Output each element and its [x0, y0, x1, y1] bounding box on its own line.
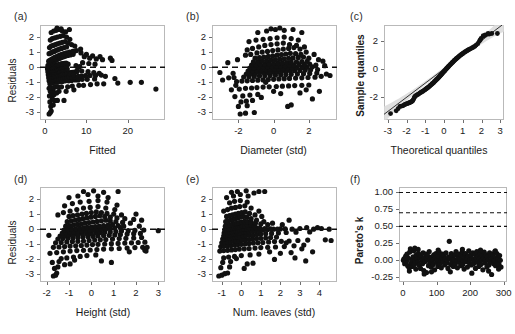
- panel-a: (a) Residuals Fitted -3-2-101201020: [0, 0, 172, 167]
- y-tickmark: [396, 226, 399, 227]
- y-tick-label: 0: [170, 223, 206, 234]
- y-tick-label: 1: [0, 46, 34, 57]
- y-tick-label: 0: [342, 63, 378, 74]
- x-tickmark: [238, 120, 239, 123]
- panel-c-plot: [384, 25, 504, 120]
- panel-b: (b) Diameter (std) -3-2-1012-202: [172, 0, 344, 167]
- x-tickmark: [45, 120, 46, 123]
- x-tickmark: [425, 120, 426, 123]
- y-tick-label: 1: [0, 208, 34, 219]
- y-tickmark: [381, 41, 384, 42]
- y-tick-label: -3: [0, 106, 34, 117]
- y-tickmark: [209, 112, 212, 113]
- x-tickmark: [482, 120, 483, 123]
- x-tickmark: [114, 282, 115, 285]
- panel-a-xlabel: Fitted: [40, 144, 165, 156]
- y-tickmark: [209, 52, 212, 53]
- y-tickmark: [209, 37, 212, 38]
- x-tickmark: [463, 120, 464, 123]
- y-tickmark: [209, 67, 212, 68]
- x-tick-label: 3: [482, 125, 515, 136]
- x-tickmark: [274, 120, 275, 123]
- x-tickmark: [403, 282, 404, 285]
- x-tick-label: 4: [301, 287, 337, 298]
- y-tick-label: -0.25: [357, 271, 393, 282]
- panel-d-xlabel: Height (std): [38, 306, 168, 318]
- y-tickmark: [37, 82, 40, 83]
- panel-e-label: (e): [186, 173, 199, 185]
- y-tickmark: [37, 112, 40, 113]
- x-tick-label: 0: [27, 125, 63, 136]
- x-tickmark: [388, 120, 389, 123]
- y-tickmark: [37, 244, 40, 245]
- y-tickmark: [209, 229, 212, 230]
- y-tickmark: [37, 214, 40, 215]
- y-tickmark: [37, 199, 40, 200]
- y-tickmark: [396, 192, 399, 193]
- y-tickmark: [37, 52, 40, 53]
- panel-f: (f) Pareto's k -0.250.000.250.500.751.00…: [344, 167, 515, 334]
- y-tickmark: [209, 199, 212, 200]
- y-tick-label: -1: [170, 76, 206, 87]
- y-tick-label: -3: [170, 106, 206, 117]
- x-tick-label: 2: [291, 125, 327, 136]
- x-tickmark: [500, 120, 501, 123]
- x-tickmark: [309, 120, 310, 123]
- x-tick-label: 0: [256, 125, 292, 136]
- x-tickmark: [437, 282, 438, 285]
- y-tickmark: [37, 67, 40, 68]
- y-tickmark: [396, 277, 399, 278]
- panel-c-label: (c): [350, 10, 363, 22]
- y-tick-label: -2: [170, 91, 206, 102]
- y-tickmark: [37, 274, 40, 275]
- panel-e-xlabel: Num. leaves (std): [199, 306, 349, 318]
- panel-d-label: (d): [14, 173, 27, 185]
- y-tick-label: -2: [0, 91, 34, 102]
- x-tick-label: 0: [385, 287, 421, 298]
- panel-c-xlabel: Theoretical quantiles: [368, 144, 510, 156]
- x-tickmark: [280, 282, 281, 285]
- x-tick-label: 300: [486, 287, 515, 298]
- y-tick-label: -2: [170, 253, 206, 264]
- x-tickmark: [91, 282, 92, 285]
- panel-b-plot: [212, 25, 337, 120]
- y-tick-label: 2: [170, 31, 206, 42]
- y-tick-label: 0: [0, 223, 34, 234]
- y-tickmark: [381, 69, 384, 70]
- y-tickmark: [37, 229, 40, 230]
- y-tickmark: [209, 82, 212, 83]
- x-tickmark: [241, 282, 242, 285]
- x-tick-label: -2: [220, 125, 256, 136]
- y-tickmark: [209, 244, 212, 245]
- figure-diagnostic-panels: (a) Residuals Fitted -3-2-101201020 (b) …: [0, 0, 515, 334]
- y-tick-label: 0: [170, 61, 206, 72]
- x-tickmark: [261, 282, 262, 285]
- y-tick-label: 2: [0, 31, 34, 42]
- panel-b-label: (b): [186, 10, 199, 22]
- panel-e-plot: [212, 187, 337, 282]
- y-tickmark: [396, 209, 399, 210]
- y-tick-label: -3: [170, 268, 206, 279]
- y-tickmark: [37, 97, 40, 98]
- x-tick-label: 100: [419, 287, 455, 298]
- panel-b-xlabel: Diameter (std): [206, 144, 341, 156]
- panel-a-plot: [40, 25, 165, 120]
- x-tickmark: [300, 282, 301, 285]
- y-tick-label: -1: [0, 238, 34, 249]
- panel-d: (d) Residuals Height (std) -3-2-1012-2-1…: [0, 167, 172, 334]
- x-tickmark: [158, 282, 159, 285]
- y-tickmark: [37, 259, 40, 260]
- y-tick-label: 2: [0, 193, 34, 204]
- y-tick-label: -1: [170, 238, 206, 249]
- x-tick-label: 3: [140, 287, 176, 298]
- y-tickmark: [209, 97, 212, 98]
- x-tickmark: [470, 282, 471, 285]
- y-tick-label: 1: [170, 46, 206, 57]
- x-tickmark: [222, 282, 223, 285]
- x-tickmark: [407, 120, 408, 123]
- x-tickmark: [128, 120, 129, 123]
- y-tick-label: -1: [0, 76, 34, 87]
- y-tick-label: 1: [170, 208, 206, 219]
- y-tickmark: [209, 214, 212, 215]
- x-tickmark: [319, 282, 320, 285]
